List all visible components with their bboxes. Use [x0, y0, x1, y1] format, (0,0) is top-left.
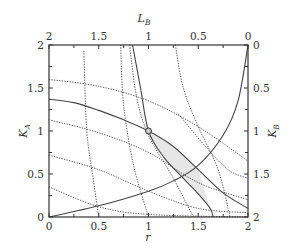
y-tick-label: 0 [37, 211, 44, 223]
series-dotted-3 [49, 155, 248, 213]
x-axis-title: r [145, 231, 151, 244]
top-axis-title-main: L [137, 12, 145, 25]
top-axis-title: LB [137, 12, 151, 27]
y-axis-title-sub: A [23, 124, 32, 131]
right-tick-label: 2 [253, 211, 260, 223]
top-tick-label: 2 [46, 30, 53, 42]
y-tick-label: 0.5 [27, 168, 44, 180]
right-axis-title-sub: B [272, 124, 281, 131]
y-tick-label: 2 [37, 39, 44, 51]
top-tick-label: 1 [145, 30, 152, 42]
right-tick-label: 0 [253, 39, 260, 51]
svg-text:KB: KB [266, 124, 281, 139]
right-axis-title: KB [266, 124, 281, 139]
right-tick-label: 1.5 [253, 168, 270, 180]
top-axis-title-sub: B [144, 18, 151, 27]
series-layer [49, 45, 248, 217]
chart-canvas: 00200.50.51.50.511111.51.50.51.52202 r L… [0, 0, 294, 252]
svg-text:KA: KA [17, 124, 32, 139]
x-tick-label: 2 [245, 220, 252, 232]
series-dotted-5 [84, 51, 99, 217]
marker-open-circle [146, 128, 152, 134]
x-tick-label: 1.5 [190, 220, 207, 232]
y-tick-label: 1.5 [27, 82, 44, 94]
right-tick-label: 1 [253, 125, 260, 137]
series-solid-decreasing [49, 99, 248, 208]
y-tick-label: 1 [37, 125, 44, 137]
svg-text:LB: LB [137, 12, 151, 27]
series-dotted-6 [121, 45, 149, 217]
top-tick-label: 0.5 [190, 30, 207, 42]
series-dotted-7 [130, 45, 194, 217]
x-tick-label: 0 [46, 220, 53, 232]
right-tick-label: 0.5 [253, 82, 270, 94]
top-tick-label: 1.5 [90, 30, 107, 42]
top-tick-label: 0 [245, 30, 252, 42]
series-dotted-1 [49, 79, 248, 161]
x-tick-label: 0.5 [90, 220, 107, 232]
y-axis-title: KA [17, 124, 32, 139]
